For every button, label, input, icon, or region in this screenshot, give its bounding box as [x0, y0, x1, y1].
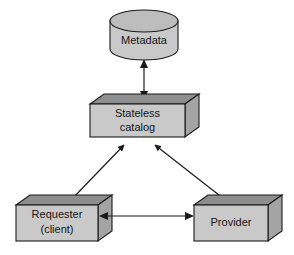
provider-label: Provider [211, 216, 252, 228]
requester-label-line2: (client) [40, 223, 73, 235]
metadata-cylinder-top [110, 10, 178, 32]
node-requester[interactable]: Requester (client) [16, 195, 112, 241]
diagram-canvas: Metadata Stateless catalog [0, 0, 294, 255]
catalog-label-line2: catalog [120, 121, 155, 133]
architecture-diagram: Metadata Stateless catalog [0, 0, 294, 255]
requester-top-face [16, 195, 112, 205]
catalog-top-face [90, 94, 199, 104]
requester-label-line1: Requester [32, 208, 83, 220]
provider-top-face [194, 195, 282, 205]
node-stateless-catalog[interactable]: Stateless catalog [90, 94, 199, 137]
catalog-label-line1: Stateless [115, 107, 161, 119]
node-metadata[interactable]: Metadata [110, 10, 178, 60]
node-provider[interactable]: Provider [194, 195, 282, 241]
metadata-label: Metadata [121, 34, 168, 46]
